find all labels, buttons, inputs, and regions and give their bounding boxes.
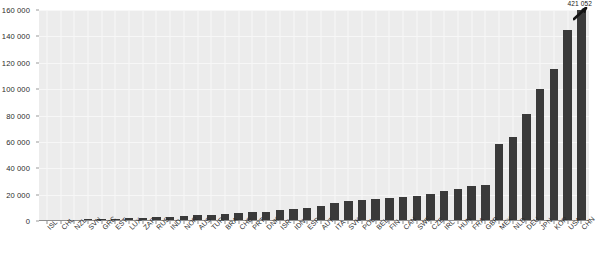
bar-slot xyxy=(136,10,150,221)
bar-slot xyxy=(81,10,95,221)
x-axis-label-slot: BRA xyxy=(218,225,232,259)
bar-slot xyxy=(574,10,588,221)
x-axis-label-slot: ZAF xyxy=(136,225,150,259)
x-axis-label-slot: CAN xyxy=(396,225,410,259)
y-axis-tick-label: 80 000 xyxy=(6,111,30,120)
y-axis-tick-label: 100 000 xyxy=(2,85,30,94)
x-axis-label-slot: ITA xyxy=(328,225,342,259)
bar-slot xyxy=(451,10,465,221)
x-axis-label-slot: GBR xyxy=(479,225,493,259)
bar-slot xyxy=(547,10,561,221)
bar-slot xyxy=(561,10,575,221)
x-axis-label-slot: CHE xyxy=(232,225,246,259)
bar-slot xyxy=(437,10,451,221)
bar-slot xyxy=(383,10,397,221)
bar[interactable] xyxy=(563,30,571,221)
x-axis-label-slot: AUT xyxy=(314,225,328,259)
bar-slot xyxy=(67,10,81,221)
x-axis-label-slot: TUR xyxy=(204,225,218,259)
bar[interactable] xyxy=(577,10,585,221)
x-axis-label-slot: SVK xyxy=(341,225,355,259)
x-axis-label-slot: KOR xyxy=(547,225,561,259)
bar-slot xyxy=(479,10,493,221)
x-axis-label-slot: PRT xyxy=(246,225,260,259)
bar-slot xyxy=(369,10,383,221)
x-axis-label-slot: EST xyxy=(109,225,123,259)
bar-slot xyxy=(54,10,68,221)
x-axis-label-slot: POL xyxy=(355,225,369,259)
bar-slot xyxy=(122,10,136,221)
x-axis-label-slot: IND xyxy=(163,225,177,259)
x-axis-labels: ISLCHLNZLSVNGRCESTLUXZAFRUSINDNORAUSTURB… xyxy=(39,225,589,259)
y-axis-tick-label: 60 000 xyxy=(6,137,30,146)
bar-slot xyxy=(465,10,479,221)
bar[interactable] xyxy=(454,189,462,221)
y-axis-tick-label: 160 000 xyxy=(2,6,30,15)
x-axis-label-slot: GRC xyxy=(95,225,109,259)
x-axis-label-slot: USA xyxy=(561,225,575,259)
bar-slot xyxy=(150,10,164,221)
bar-slot xyxy=(520,10,534,221)
bar-slot xyxy=(40,10,54,221)
bar[interactable] xyxy=(481,185,489,221)
bar-slot xyxy=(355,10,369,221)
bar-slot xyxy=(273,10,287,221)
bar-slot xyxy=(492,10,506,221)
bars-layer xyxy=(39,10,589,221)
bar[interactable] xyxy=(495,144,503,221)
bar-slot xyxy=(300,10,314,221)
bar-slot xyxy=(109,10,123,221)
x-axis-label-slot: DNK xyxy=(259,225,273,259)
bar-slot xyxy=(533,10,547,221)
bar-slot xyxy=(314,10,328,221)
x-axis: ISLCHLNZLSVNGRCESTLUXZAFRUSINDNORAUSTURB… xyxy=(39,221,589,259)
x-axis-label-slot: MEX xyxy=(492,225,506,259)
bar-slot xyxy=(163,10,177,221)
x-axis-label-slot: JPN xyxy=(533,225,547,259)
bar[interactable] xyxy=(536,89,544,221)
bar-slot xyxy=(287,10,301,221)
value-annotation-chn: 421 052 xyxy=(567,0,592,7)
x-axis-label-slot: FRA xyxy=(465,225,479,259)
x-axis-label-slot: IRL xyxy=(437,225,451,259)
bar-slot xyxy=(232,10,246,221)
x-axis-label-slot: ISL xyxy=(40,225,54,259)
x-axis-label-slot: SVN xyxy=(81,225,95,259)
x-axis-label-slot: NLD xyxy=(506,225,520,259)
bar-slot xyxy=(341,10,355,221)
y-axis: 020 00040 00060 00080 000100 000120 0001… xyxy=(0,0,36,259)
y-axis-tick-label: 0 xyxy=(26,217,30,226)
x-axis-label-slot: CHL xyxy=(54,225,68,259)
bar-slot xyxy=(191,10,205,221)
bar-slot xyxy=(328,10,342,221)
bar[interactable] xyxy=(522,114,530,221)
bar[interactable] xyxy=(509,137,517,221)
y-axis-tick-label: 40 000 xyxy=(6,164,30,173)
bar-slot xyxy=(506,10,520,221)
bar-slot xyxy=(410,10,424,221)
x-axis-label-slot: HUN xyxy=(451,225,465,259)
x-axis-label-slot: CZE xyxy=(424,225,438,259)
bar[interactable] xyxy=(550,69,558,221)
bar-slot xyxy=(218,10,232,221)
bar[interactable] xyxy=(344,201,352,221)
x-axis-label-slot: ISR xyxy=(273,225,287,259)
bar-slot xyxy=(259,10,273,221)
x-axis-label-slot: ESP xyxy=(300,225,314,259)
x-axis-label-slot: FIN xyxy=(383,225,397,259)
bar-slot xyxy=(396,10,410,221)
bar-slot xyxy=(246,10,260,221)
bar-slot xyxy=(204,10,218,221)
bar-slot xyxy=(177,10,191,221)
x-axis-label-slot: LUX xyxy=(122,225,136,259)
y-axis-tick-label: 140 000 xyxy=(2,32,30,41)
plot-area xyxy=(39,10,589,221)
bar-slot xyxy=(95,10,109,221)
axis-break-icon xyxy=(573,7,589,21)
x-axis-label-slot: BEL xyxy=(369,225,383,259)
x-axis-label-slot: NZL xyxy=(67,225,81,259)
bar[interactable] xyxy=(399,197,407,221)
x-axis-label-slot: NOR xyxy=(177,225,191,259)
x-axis-label-slot: SWE xyxy=(410,225,424,259)
